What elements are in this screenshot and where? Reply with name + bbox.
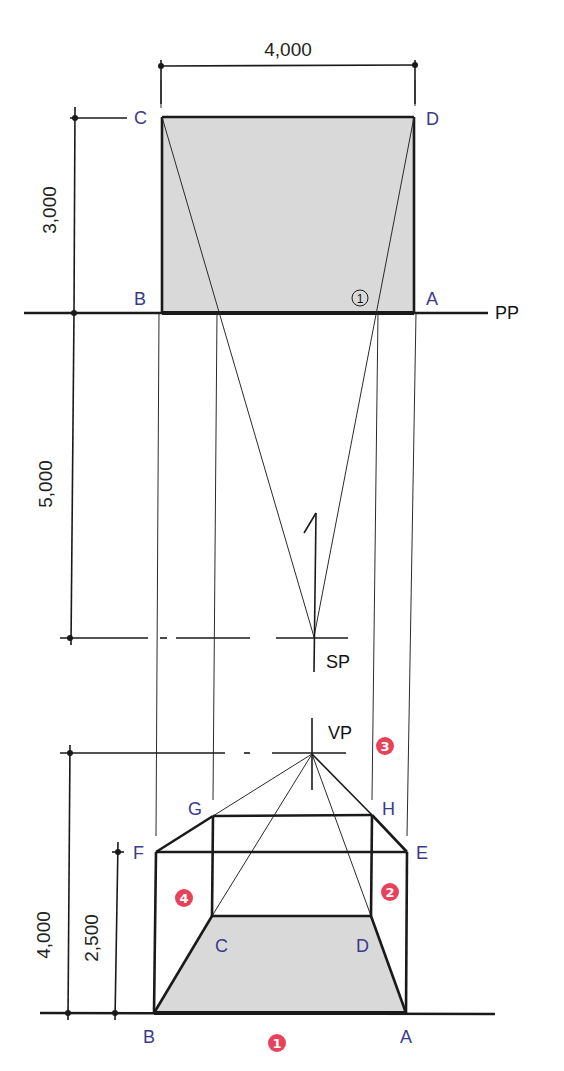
dim-dot [112,1010,118,1016]
dim-label-eye-height: 4,000 [33,911,54,959]
label-a: A [400,1027,412,1047]
label-plan-d: D [426,109,439,129]
label-d: D [356,936,369,956]
edge-ea [406,852,407,1013]
label-b: B [143,1027,155,1047]
step-badge-1: 1 [268,1034,286,1052]
edge-he [372,815,407,852]
sp-vertical [314,513,316,672]
label-e: E [416,843,428,863]
projector-b [156,313,159,836]
dim-line-distance [71,313,74,645]
label-plan-b: B [134,289,146,309]
edge-hd [371,815,372,916]
edge-fg [156,816,213,852]
vanish-line-h [312,754,372,815]
vanish-line-d [312,754,371,916]
dim-dot [412,62,418,68]
label-plan-a: A [426,289,438,309]
step-badge-3: 3 [376,737,394,755]
label-c: C [215,936,228,956]
dim-dot [65,1010,71,1016]
dim-label-box-height: 2,500 [81,914,102,962]
label-pp: PP [495,303,519,323]
projector-a [407,313,416,836]
dim-label-depth: 3,000 [39,186,60,234]
label-vp: VP [328,723,352,743]
dim-dot [158,63,164,69]
dim-line-width [160,65,417,66]
dim-dot [115,849,121,855]
edge-gh [213,815,372,816]
label-f: F [133,843,144,863]
edge-fb [154,852,156,1013]
perspective-diagram: 4,000 3,000 PP C D B A 1 5,000 [0,0,564,1071]
view-arrow-tip [304,513,316,533]
svg-text:1: 1 [272,1036,281,1051]
label-h: H [382,799,395,819]
svg-text:2: 2 [385,885,394,900]
floor-trapezoid [154,916,406,1013]
dim-line-box-height [115,842,118,1020]
dim-dot [72,115,78,121]
dim-line-eye-height [68,745,70,1020]
label-sp: SP [326,652,350,672]
svg-text:4: 4 [179,891,188,906]
step-badge-2: 2 [381,883,399,901]
edge-gc [212,816,213,916]
perspective-view: VP 4,000 2,500 G H F E [33,718,495,1052]
label-plan-c: C [134,108,147,128]
vanish-line-c [212,754,312,916]
marker-circle-1-label: 1 [357,292,364,306]
projector-c [213,313,217,800]
plan-view: 4,000 3,000 PP C D B A 1 5,000 [24,39,519,672]
dim-label-distance: 5,000 [35,460,56,508]
plan-rectangle [162,117,414,313]
dim-label-width: 4,000 [264,39,312,60]
vanish-line-g [213,754,312,816]
label-g: G [188,799,202,819]
projector-d [372,313,378,800]
svg-text:3: 3 [380,739,389,754]
step-badge-4: 4 [175,889,193,907]
dim-line-depth [74,107,75,313]
